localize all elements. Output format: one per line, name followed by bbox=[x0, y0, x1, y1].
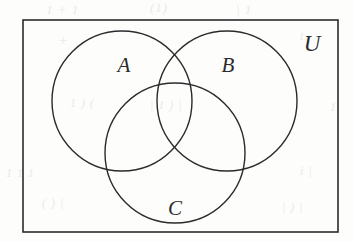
set-label-a: A bbox=[116, 53, 131, 77]
set-label-b: B bbox=[222, 53, 235, 77]
universal-set-label: U bbox=[304, 31, 322, 56]
set-label-c: C bbox=[168, 196, 183, 220]
venn-diagram-canvas: A B C U bbox=[0, 0, 354, 242]
venn-diagram-figure: 1 + 1(1)| 1+t1 ) (| 1 ) |11 1 1i |( ) ||… bbox=[0, 0, 354, 242]
